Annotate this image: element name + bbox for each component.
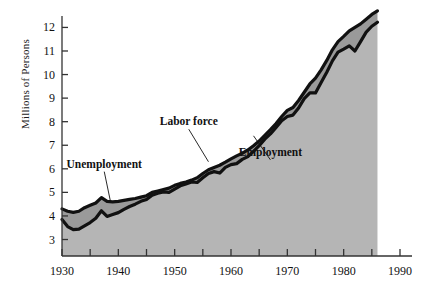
svg-text:3: 3: [49, 233, 55, 247]
chart-figure: Millions of Persons 34567891011121930194…: [0, 0, 424, 286]
svg-text:12: 12: [43, 20, 55, 34]
svg-text:4: 4: [49, 209, 55, 223]
annotation-label: Employment: [239, 146, 302, 159]
svg-text:5: 5: [49, 185, 55, 199]
area-fills: [62, 11, 377, 256]
svg-text:1950: 1950: [163, 264, 187, 278]
svg-text:10: 10: [43, 68, 55, 82]
svg-text:1940: 1940: [106, 264, 130, 278]
annotation-label: Unemployment: [67, 158, 143, 171]
y-axis-title: Millions of Persons: [19, 29, 31, 139]
svg-text:7: 7: [49, 138, 55, 152]
svg-text:1960: 1960: [219, 264, 243, 278]
svg-text:1930: 1930: [50, 264, 74, 278]
svg-text:1980: 1980: [332, 264, 356, 278]
svg-text:6: 6: [49, 162, 55, 176]
svg-text:1990: 1990: [388, 264, 412, 278]
svg-text:9: 9: [49, 91, 55, 105]
annotation-label: Labor force: [160, 115, 218, 127]
svg-text:11: 11: [43, 44, 55, 58]
svg-text:8: 8: [49, 115, 55, 129]
svg-text:1970: 1970: [275, 264, 299, 278]
chart-canvas: 3456789101112193019401950196019701980199…: [0, 0, 424, 286]
